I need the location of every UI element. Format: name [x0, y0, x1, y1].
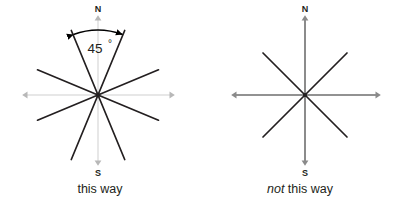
left-star-center-dot — [96, 93, 100, 97]
right-north-arrowhead — [302, 15, 309, 20]
left-south-label: S — [95, 168, 101, 178]
right-star-group: N S — [231, 4, 381, 178]
left-star-group: N S 45 ° — [22, 4, 175, 178]
caption-not-this-way: not this way — [200, 181, 400, 197]
right-west-arrowhead — [231, 92, 236, 99]
right-north-south-axis — [302, 15, 309, 166]
caption-right-text: this way — [288, 182, 333, 196]
compass-rose-figure: N S 45 ° — [0, 0, 402, 208]
left-west-arrowhead — [22, 92, 27, 99]
right-south-arrowhead — [302, 161, 309, 166]
diagram-canvas: N S 45 ° — [0, 0, 402, 208]
right-north-label: N — [302, 4, 309, 14]
angle-value-label: 45 — [87, 41, 102, 56]
right-south-label: S — [302, 168, 308, 178]
angle-degree-symbol: ° — [108, 38, 112, 49]
caption-left-text: this way — [77, 182, 122, 196]
left-north-arrowhead — [95, 15, 102, 20]
left-south-arrowhead — [95, 161, 102, 166]
right-east-arrowhead — [376, 92, 381, 99]
right-star-center-dot — [303, 93, 307, 97]
caption-right-emphasis: not — [267, 182, 284, 196]
caption-this-way: this way — [0, 181, 200, 197]
left-north-label: N — [95, 4, 102, 14]
left-east-arrowhead — [170, 92, 175, 99]
